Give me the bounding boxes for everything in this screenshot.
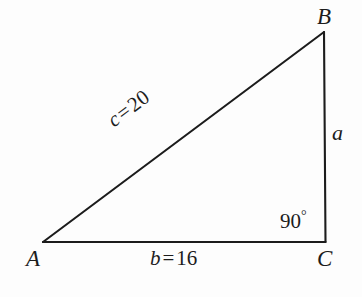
side-label-a: a — [332, 122, 343, 144]
vertex-label-c: C — [317, 247, 333, 270]
vertex-label-a: A — [26, 247, 40, 270]
angle-label-90-degrees: 90° — [280, 211, 307, 232]
right-triangle-figure: A B C a b=16 c=20 90° — [0, 0, 362, 297]
side-a-vertical-line — [324, 32, 326, 242]
side-label-b: b=16 — [150, 248, 197, 269]
side-b-equals: = — [161, 246, 177, 270]
vertex-label-b: B — [317, 5, 331, 28]
side-b-value: 16 — [176, 246, 197, 270]
angle-value: 90 — [280, 209, 301, 233]
side-b-variable: b — [150, 246, 161, 270]
degree-symbol-icon: ° — [301, 208, 307, 223]
